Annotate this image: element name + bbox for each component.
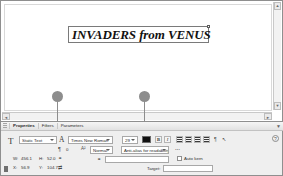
tab-properties[interactable]: Properties [9, 123, 38, 129]
help-icon[interactable]: ? [272, 135, 279, 142]
paragraph-format-icon[interactable]: ¶ [214, 136, 217, 142]
auto-kern-checkbox[interactable] [177, 156, 182, 161]
scroll-down-icon[interactable]: ▼ [274, 102, 281, 110]
anchor-icon [4, 166, 8, 172]
bold-button[interactable]: B [155, 136, 162, 143]
stage-canvas[interactable]: INVADERS from VENUS [4, 4, 272, 111]
chevron-down-icon [50, 139, 54, 141]
panel-grip-icon[interactable] [3, 123, 7, 129]
anti-alias-dropdown[interactable]: Anti-alias for readability [121, 146, 169, 154]
chevron-down-icon [106, 149, 110, 151]
text-color-swatch[interactable] [142, 136, 151, 143]
scroll-right-icon[interactable]: ► [264, 113, 272, 120]
target-field[interactable] [163, 165, 213, 172]
chevron-down-icon [106, 139, 110, 141]
letter-spacing-label: 0 [66, 147, 68, 153]
x-label: X: [13, 165, 17, 171]
char-position-icon: A² [81, 146, 86, 152]
scroll-up-icon[interactable]: ▲ [274, 2, 281, 10]
align-center-icon [186, 137, 191, 142]
stage-vertical-scrollbar[interactable]: ▲ ▼ [273, 2, 281, 110]
text-tool-icon: T [8, 137, 14, 146]
width-value[interactable]: 456.1 [21, 156, 32, 162]
tab-parameters[interactable]: Parameters [57, 123, 87, 129]
y-label: Y: [39, 165, 43, 171]
y-value[interactable]: 104.7 [47, 165, 58, 171]
font-size-field[interactable]: 29 [122, 136, 138, 144]
height-label: H: [39, 156, 43, 162]
swap-dimensions-icon[interactable]: ⇄ [58, 164, 62, 170]
panel-tab-bar: Properties Filters Parameters ▼ [1, 122, 283, 131]
selection-handle-top-right[interactable] [207, 25, 210, 28]
stage-text-content: INVADERS from VENUS [72, 28, 205, 42]
x-value[interactable]: 56.9 [21, 165, 30, 171]
chevron-down-icon [131, 139, 135, 141]
auto-kern-label: Auto kern [184, 156, 203, 162]
properties-panel-body: ? T Static Text A Times New Roman 29 B I [1, 131, 282, 175]
height-value[interactable]: 52.0 [47, 156, 56, 162]
tab-filters[interactable]: Filters [38, 123, 57, 129]
url-link-icon: ⚭ [97, 156, 101, 162]
align-center-button[interactable] [185, 136, 192, 143]
properties-panel: Properties Filters Parameters ▼ ? T Stat… [0, 122, 283, 176]
edit-format-icon[interactable]: ↖ [222, 136, 226, 142]
stage-area[interactable]: INVADERS from VENUS ▲ ▼ ◄ ► [0, 0, 283, 122]
italic-button[interactable]: I [164, 136, 171, 143]
target-label: Target: [147, 166, 160, 172]
flash-authoring-window: INVADERS from VENUS ▲ ▼ ◄ ► Properties F [0, 0, 283, 176]
lock-aspect-icon[interactable]: ⚭ [58, 155, 62, 161]
chevron-down-icon [162, 149, 166, 151]
char-position-dropdown[interactable]: Normal [90, 146, 113, 154]
character-section-icon: A [59, 136, 64, 144]
embed-font-icon[interactable]: ⋯ [175, 146, 180, 152]
panel-minimize-icon[interactable]: ▼ [276, 123, 282, 129]
text-type-value: Static Text [22, 138, 42, 143]
stage-text-object[interactable]: INVADERS from VENUS [68, 26, 209, 43]
font-size-value: 29 [125, 138, 130, 143]
align-right-button[interactable] [194, 136, 201, 143]
font-family-value: Times New Roman [71, 138, 108, 143]
stage-horizontal-scrollbar[interactable]: ◄ ► [2, 112, 272, 120]
text-type-dropdown[interactable]: Static Text [19, 136, 57, 144]
font-family-dropdown[interactable]: Times New Roman [68, 136, 113, 144]
paragraph-section-icon: ¶ [58, 146, 61, 152]
align-left-icon [177, 137, 182, 142]
align-justify-button[interactable] [203, 136, 210, 143]
align-right-icon [195, 137, 200, 142]
align-justify-icon [204, 137, 209, 142]
align-left-button[interactable] [176, 136, 183, 143]
scroll-left-icon[interactable]: ◄ [2, 113, 10, 120]
url-link-field[interactable] [105, 156, 169, 163]
width-label: W: [13, 156, 18, 162]
